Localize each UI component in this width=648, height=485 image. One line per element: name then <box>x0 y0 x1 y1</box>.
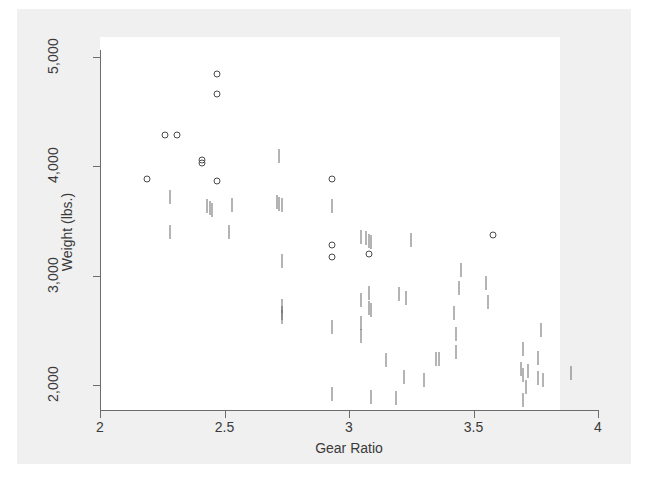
data-point-tick <box>212 203 213 217</box>
data-point-circle <box>144 176 151 183</box>
data-point-tick <box>523 368 524 382</box>
data-point-circle <box>199 160 206 167</box>
data-point-tick <box>361 230 362 244</box>
data-point-tick <box>279 149 280 163</box>
y-axis-tick <box>93 385 100 386</box>
data-point-tick <box>331 320 332 334</box>
data-point-circle <box>328 254 335 261</box>
data-point-tick <box>411 233 412 247</box>
x-axis-tick-label: 2.5 <box>215 419 234 435</box>
data-point-tick <box>456 345 457 359</box>
data-point-tick <box>403 370 404 384</box>
data-point-tick <box>423 373 424 387</box>
data-point-tick <box>279 197 280 211</box>
data-point-tick <box>538 371 539 385</box>
x-axis-tick-label: 2 <box>96 419 104 435</box>
data-point-tick <box>540 323 541 337</box>
data-point-tick <box>231 198 232 212</box>
data-point-circle <box>174 131 181 138</box>
data-point-tick <box>169 225 170 239</box>
data-point-circle <box>365 250 372 257</box>
data-point-tick <box>398 287 399 301</box>
y-axis-title: Weight (lbs.) <box>59 152 75 312</box>
x-axis-tick <box>598 411 599 418</box>
data-point-tick <box>361 329 362 343</box>
data-point-tick <box>488 295 489 309</box>
data-point-tick <box>368 234 369 248</box>
data-point-tick <box>331 199 332 213</box>
data-point-tick <box>281 254 282 268</box>
data-point-circle <box>214 91 221 98</box>
data-point-tick <box>538 351 539 365</box>
data-point-tick <box>371 235 372 249</box>
x-axis-tick <box>100 411 101 418</box>
data-point-tick <box>461 263 462 277</box>
data-point-tick <box>276 195 277 209</box>
x-axis-tick <box>349 411 350 418</box>
data-point-tick <box>456 327 457 341</box>
data-point-tick <box>169 190 170 204</box>
data-point-tick <box>520 362 521 376</box>
y-axis-tick-label: 5,000 <box>45 26 61 86</box>
data-point-tick <box>366 231 367 245</box>
data-point-tick <box>281 198 282 212</box>
data-point-circle <box>328 242 335 249</box>
data-point-tick <box>406 291 407 305</box>
scatter-plot-page: 2,0003,0004,0005,00022.533.54 Weight (lb… <box>0 0 648 485</box>
y-axis-tick <box>93 57 100 58</box>
data-point-tick <box>371 390 372 404</box>
data-point-tick <box>229 225 230 239</box>
x-axis-tick <box>474 411 475 418</box>
x-axis-tick <box>225 411 226 418</box>
data-point-tick <box>458 281 459 295</box>
x-axis-tick-label: 3 <box>345 419 353 435</box>
data-point-tick <box>207 199 208 213</box>
y-axis-tick <box>93 166 100 167</box>
data-point-tick <box>281 310 282 324</box>
data-point-tick <box>386 353 387 367</box>
data-point-tick <box>361 316 362 330</box>
y-axis-tick <box>93 276 100 277</box>
data-point-tick <box>485 276 486 290</box>
data-point-tick <box>543 373 544 387</box>
data-point-tick <box>396 391 397 405</box>
y-axis-tick-label: 2,000 <box>45 354 61 414</box>
x-axis-tick-label: 3.5 <box>464 419 483 435</box>
data-point-tick <box>523 342 524 356</box>
data-point-circle <box>490 232 497 239</box>
data-point-tick <box>368 286 369 300</box>
data-point-tick <box>209 201 210 215</box>
data-point-tick <box>436 352 437 366</box>
data-point-tick <box>523 393 524 407</box>
data-point-tick <box>438 352 439 366</box>
data-point-tick <box>368 301 369 315</box>
x-axis-tick-label: 4 <box>594 419 602 435</box>
data-point-tick <box>525 380 526 394</box>
data-point-circle <box>328 176 335 183</box>
data-point-circle <box>214 177 221 184</box>
data-point-tick <box>361 293 362 307</box>
data-point-circle <box>214 71 221 78</box>
data-marker-layer <box>0 0 648 485</box>
data-point-tick <box>528 364 529 378</box>
x-axis-title: Gear Ratio <box>279 440 419 456</box>
data-point-tick <box>570 366 571 380</box>
data-point-tick <box>331 387 332 401</box>
data-point-tick <box>371 303 372 317</box>
data-point-tick <box>453 306 454 320</box>
data-point-circle <box>161 131 168 138</box>
